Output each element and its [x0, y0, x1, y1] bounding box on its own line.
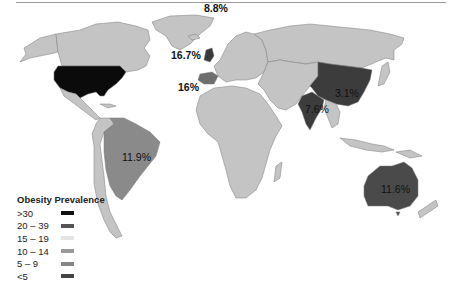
legend-label: 5 – 9 [17, 258, 61, 269]
annotation-uk: 16.7% [171, 49, 201, 61]
region-greenland [152, 15, 214, 50]
legend-item: 20 – 39 [17, 220, 105, 233]
legend-item: >30 [17, 207, 105, 220]
region-madagascar [274, 162, 282, 182]
region-spain [198, 72, 218, 84]
legend-title: Obesity Prevalence [17, 194, 105, 205]
annotation-australia: 11.6% [381, 183, 410, 195]
annotation-india: 7.6% [305, 103, 329, 115]
annotation-brazil: 11.9% [122, 151, 151, 163]
legend-item: <5 [17, 270, 105, 283]
legend-label: 15 – 19 [17, 233, 61, 244]
legend: Obesity Prevalence >30 20 – 39 15 – 19 1… [17, 194, 105, 283]
region-indonesia [340, 138, 394, 152]
region-europe [214, 32, 268, 82]
legend-label: <5 [17, 271, 61, 282]
annotation-spain: 16% [178, 81, 199, 93]
legend-item: 15 – 19 [17, 232, 105, 245]
legend-swatch [61, 274, 74, 278]
legend-item: 5 – 9 [17, 257, 105, 270]
region-new-zealand [418, 200, 438, 218]
annotation-norway: 8.8% [204, 2, 228, 14]
region-tasmania [396, 212, 400, 216]
region-africa [196, 86, 282, 198]
region-alaska [20, 34, 58, 62]
legend-swatch [61, 249, 74, 253]
legend-item: 10 – 14 [17, 245, 105, 258]
annotation-china: 3.1% [335, 87, 359, 99]
legend-label: 10 – 14 [17, 246, 61, 257]
legend-swatch [61, 236, 74, 240]
region-uk [204, 48, 214, 62]
region-caribbean [100, 104, 116, 108]
region-new-guinea [396, 150, 422, 158]
legend-swatch [61, 211, 74, 215]
legend-label: 20 – 39 [17, 220, 61, 231]
legend-swatch [61, 224, 74, 228]
legend-label: >30 [17, 208, 61, 219]
region-japan [378, 62, 390, 86]
region-canada [56, 22, 150, 72]
legend-swatch [61, 262, 74, 266]
